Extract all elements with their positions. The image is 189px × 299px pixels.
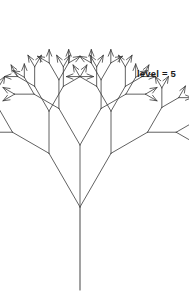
level-label: level = 5 xyxy=(137,68,176,80)
figure-background xyxy=(0,0,189,299)
fractal-tree-figure xyxy=(0,0,189,299)
